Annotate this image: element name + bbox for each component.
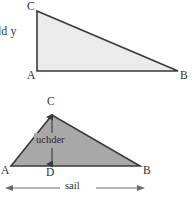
- height-measure-label: uchder: [35, 135, 66, 146]
- lower-vertex-label-a: A: [1, 165, 9, 177]
- upper-vertex-label-b: B: [180, 70, 188, 82]
- lower-vertex-label-d: D: [46, 167, 54, 179]
- upper-vertex-label-a: A: [27, 70, 35, 82]
- cropped-leading-text: dd y: [0, 25, 17, 37]
- base-measure-label: sail: [64, 181, 81, 192]
- lower-vertex-label-b: B: [143, 165, 151, 177]
- lower-vertex-label-c: C: [47, 96, 55, 108]
- upper-vertex-label-c: C: [27, 1, 35, 13]
- lower-triangle-shape: [11, 115, 140, 166]
- diagram-page: { "page": { "width": 195, "height": 200,…: [0, 0, 195, 200]
- geometry-canvas: [0, 0, 195, 200]
- upper-triangle-shape: [37, 11, 178, 71]
